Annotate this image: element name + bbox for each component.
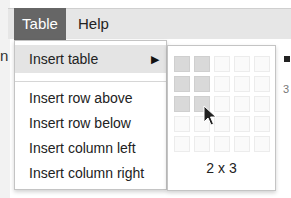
submenu-arrow-icon: ▶ <box>151 45 159 73</box>
grid-cell[interactable] <box>194 136 210 152</box>
menu-help[interactable]: Help <box>72 8 115 40</box>
menu-item-insert-table[interactable]: Insert table ▶ <box>15 45 166 73</box>
grid-cell[interactable] <box>254 136 270 152</box>
table-size-picker: 2 x 3 <box>167 45 276 191</box>
grid-cell[interactable] <box>174 56 190 72</box>
grid-cell[interactable] <box>234 116 250 132</box>
menu-item-insert-column-left[interactable]: Insert column left <box>15 134 166 162</box>
grid-cell[interactable] <box>194 76 210 92</box>
menu-table[interactable]: Table <box>14 8 66 40</box>
obscured-menu-text: n <box>0 47 8 64</box>
grid-cell[interactable] <box>254 56 270 72</box>
grid-cell[interactable] <box>254 76 270 92</box>
grid-cell[interactable] <box>214 76 230 92</box>
obscured-toolbar-text: 3 <box>283 83 289 95</box>
menu-item-insert-row-above[interactable]: Insert row above <box>15 84 166 112</box>
grid-cell[interactable] <box>234 56 250 72</box>
grid-cell[interactable] <box>254 96 270 112</box>
table-menu-dropdown: Insert table ▶ Insert row above Insert r… <box>14 40 167 190</box>
grid-cell[interactable] <box>174 96 190 112</box>
grid-cell[interactable] <box>214 136 230 152</box>
menu-item-insert-row-below[interactable]: Insert row below <box>15 109 166 137</box>
grid-cell[interactable] <box>194 56 210 72</box>
grid-cell[interactable] <box>234 96 250 112</box>
table-size-label: 2 x 3 <box>168 160 275 176</box>
grid-cell[interactable] <box>174 136 190 152</box>
grid-cell[interactable] <box>234 136 250 152</box>
grid-cell[interactable] <box>254 116 270 132</box>
menu-divider <box>15 81 166 82</box>
menu-item-insert-column-right[interactable]: Insert column right <box>15 159 166 187</box>
grid-cell[interactable] <box>174 76 190 92</box>
toolbar-icon-partial <box>284 56 290 62</box>
mouse-pointer-icon <box>203 105 217 127</box>
grid-cell[interactable] <box>174 116 190 132</box>
grid-cell[interactable] <box>214 56 230 72</box>
table-size-grid[interactable] <box>174 56 270 152</box>
grid-cell[interactable] <box>234 76 250 92</box>
menu-item-label: Insert table <box>29 51 98 67</box>
